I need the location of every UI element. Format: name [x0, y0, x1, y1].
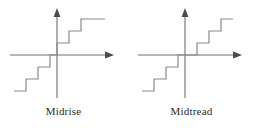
midrise-plot: [0, 6, 127, 104]
midtread-plot: [128, 6, 255, 104]
midrise-x-axis-arrow-icon: [105, 52, 114, 59]
quantizer-staircase-figure: Midrise Midtread: [0, 0, 255, 134]
midtread-y-axis-arrow-icon: [182, 8, 189, 17]
midtread-panel: Midtread: [128, 0, 255, 134]
midtread-caption: Midtread: [128, 104, 255, 118]
midrise-y-axis-arrow-icon: [54, 8, 61, 17]
midtread-x-axis-arrow-icon: [233, 52, 242, 59]
midrise-caption: Midrise: [0, 104, 127, 118]
midrise-panel: Midrise: [0, 0, 127, 134]
